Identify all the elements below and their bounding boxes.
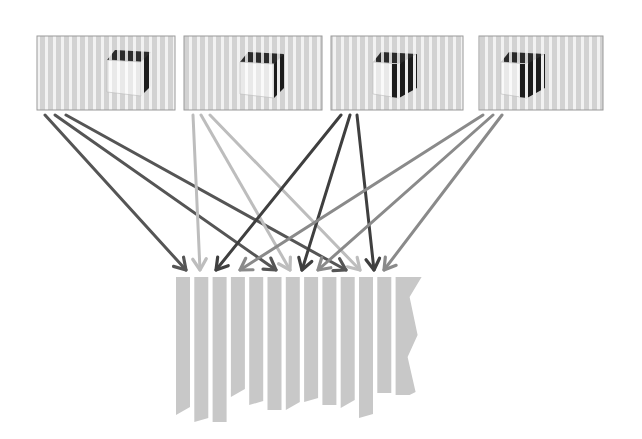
output-stripe <box>176 277 190 415</box>
arrow <box>384 115 502 270</box>
cube-image <box>501 52 545 98</box>
output-stripe <box>341 277 355 408</box>
output-stripe <box>377 277 391 393</box>
cube-image <box>240 52 284 98</box>
output-stripe <box>268 277 282 410</box>
interleaving-diagram <box>0 0 642 439</box>
input-views <box>37 36 603 110</box>
output-stripe <box>286 277 300 410</box>
output-stripe <box>231 277 245 397</box>
output-stripe <box>322 277 336 405</box>
arrow <box>210 115 360 270</box>
view-panel-1 <box>37 36 175 110</box>
output-stripe <box>304 277 318 402</box>
cube-image <box>373 52 417 98</box>
view-panel-2 <box>184 36 322 110</box>
output-stripe <box>194 277 208 422</box>
output-stripe <box>213 277 227 422</box>
cube-image <box>107 50 151 96</box>
view-panel-4 <box>479 36 603 110</box>
interleaved-output <box>176 277 422 422</box>
view-panel-3 <box>331 36 463 110</box>
output-stripe <box>359 277 373 418</box>
output-stripe <box>249 277 263 405</box>
arrow <box>240 115 483 270</box>
arrow <box>66 115 346 271</box>
output-stripe <box>396 277 422 395</box>
mapping-arrows <box>45 115 502 271</box>
